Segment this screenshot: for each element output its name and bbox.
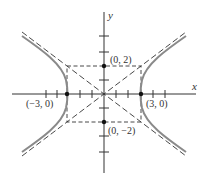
- point-0-neg2: [102, 120, 106, 124]
- x-axis-label: x: [191, 80, 197, 92]
- hyperbola-diagram: y x (0, 2) (0, −2) (−3, 0) (3, 0): [0, 0, 206, 181]
- y-axis-label: y: [107, 9, 113, 21]
- label-3-0: (3, 0): [146, 98, 168, 110]
- point-neg3-0: [65, 92, 69, 96]
- label-neg3-0: (−3, 0): [26, 98, 53, 110]
- label-0-2: (0, 2): [110, 54, 132, 66]
- point-0-2: [102, 64, 106, 68]
- point-3-0: [139, 92, 143, 96]
- label-0-neg2: (0, −2): [108, 125, 135, 137]
